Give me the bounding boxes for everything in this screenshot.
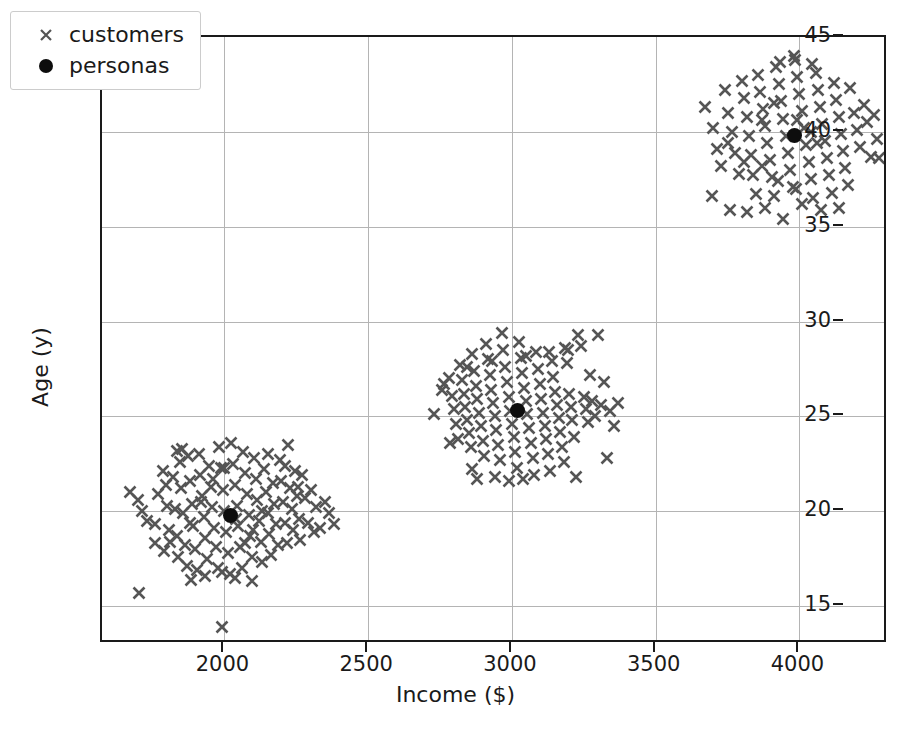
y-tick-mark — [833, 413, 843, 415]
y-tick-mark — [833, 603, 843, 605]
y-tick-mark — [833, 34, 843, 36]
y-tick-label: 20 — [804, 497, 831, 521]
y-tick-label: 45 — [804, 23, 831, 47]
legend-label-personas: personas — [69, 53, 169, 78]
legend-entry-customers: customers — [23, 19, 184, 50]
legend-entry-personas: personas — [23, 50, 184, 81]
x-marker-icon — [23, 26, 69, 44]
x-tick-label: 2500 — [339, 652, 392, 676]
x-tick-mark — [509, 642, 511, 652]
legend-label-customers: customers — [69, 22, 184, 47]
y-tick-label: 30 — [804, 308, 831, 332]
x-gridline — [368, 37, 369, 640]
y-tick-mark — [833, 508, 843, 510]
x-tick-mark — [365, 642, 367, 652]
plot-area — [100, 35, 886, 642]
y-tick-label: 40 — [804, 118, 831, 142]
x-tick-label: 4000 — [771, 652, 824, 676]
x-tick-mark — [221, 642, 223, 652]
x-tick-label: 3500 — [627, 652, 680, 676]
y-axis-label: Age (y) — [28, 187, 53, 547]
dot-marker-icon — [23, 59, 69, 73]
chart-legend: customers personas — [10, 11, 201, 90]
x-tick-label: 3000 — [483, 652, 536, 676]
y-tick-mark — [833, 319, 843, 321]
x-tick-mark — [653, 642, 655, 652]
x-tick-mark — [796, 642, 798, 652]
scatter-plot-figure: customers personas Age (y) Income ($) 20… — [0, 0, 911, 734]
y-tick-label: 15 — [804, 592, 831, 616]
y-gridline — [102, 227, 884, 228]
x-tick-label: 2000 — [196, 652, 249, 676]
y-tick-label: 35 — [804, 213, 831, 237]
y-tick-mark — [833, 224, 843, 226]
x-gridline — [656, 37, 657, 640]
persona-point — [510, 403, 525, 418]
y-tick-label: 25 — [804, 402, 831, 426]
x-axis-label: Income ($) — [0, 682, 911, 707]
y-gridline — [102, 606, 884, 607]
y-tick-mark — [833, 129, 843, 131]
y-gridline — [102, 322, 884, 323]
persona-point — [223, 508, 238, 523]
